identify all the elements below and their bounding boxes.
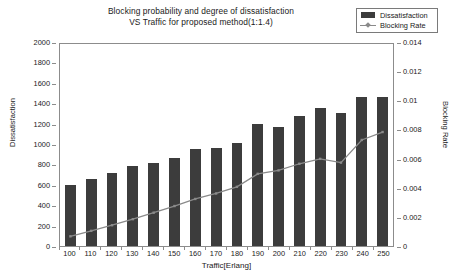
y-axis-left-tickmark xyxy=(52,206,56,207)
bar xyxy=(273,127,284,246)
bar xyxy=(377,97,388,246)
y-axis-left-tickmark xyxy=(52,247,56,248)
bar-slot xyxy=(351,44,372,246)
bar-slot xyxy=(81,44,102,246)
y-axis-left-tickmark xyxy=(52,145,56,146)
y-axis-right-tick-label: 0.008 xyxy=(403,126,422,134)
legend-label-dissatisfaction: Dissatisfaction xyxy=(380,11,428,20)
chart-title-line-2: VS Traffic for proposed method(1:1.4) xyxy=(56,17,346,28)
x-axis-tick-label: 160 xyxy=(185,249,206,258)
y-axis-left-tick-label: 1200 xyxy=(34,121,50,129)
y-axis-left-tick-label: 1800 xyxy=(34,59,50,67)
x-axis-tick-label: 170 xyxy=(206,249,227,258)
y-axis-right-tick-label: 0.01 xyxy=(403,97,417,105)
chart-title-line-1: Blocking probability and degree of dissa… xyxy=(56,6,346,17)
y-axis-right-tickmark xyxy=(397,189,401,190)
y-axis-left-tick-label: 0 xyxy=(46,243,50,251)
y-axis-left-tickmark xyxy=(52,186,56,187)
bar-slot xyxy=(310,44,331,246)
legend-bar-swatch-icon xyxy=(359,10,377,20)
bar-slot xyxy=(60,44,81,246)
y-axis-left-tickmark xyxy=(52,63,56,64)
y-axis-left-tickmark xyxy=(52,43,56,44)
y-axis-right-tick-label: 0.014 xyxy=(403,39,422,47)
y-axis-right-tick-label: 0.006 xyxy=(403,156,422,164)
y-axis-right-tickmark xyxy=(397,72,401,73)
bar-slot xyxy=(122,44,143,246)
bar xyxy=(107,173,118,246)
y-axis-right-ticks: 0.0140.0120.010.0080.0060.0040.0020 xyxy=(397,43,443,247)
bar xyxy=(315,108,326,246)
y-axis-left-tickmark xyxy=(52,227,56,228)
y-axis-right-tickmark xyxy=(397,130,401,131)
bar-slot xyxy=(143,44,164,246)
x-axis-tick-label: 100 xyxy=(59,249,80,258)
x-axis-tick-label: 240 xyxy=(352,249,373,258)
bar xyxy=(169,158,180,246)
x-axis-tick-label: 250 xyxy=(373,249,394,258)
y-axis-left-tick-label: 1400 xyxy=(34,100,50,108)
legend-item-dissatisfaction: Dissatisfaction xyxy=(359,10,435,20)
bar xyxy=(336,113,347,246)
x-axis-tick-label: 210 xyxy=(289,249,310,258)
y-axis-left-title: Dissatisfaction xyxy=(8,88,17,158)
x-axis-ticks: 1001101201301401501601701801902002102202… xyxy=(59,249,394,258)
bar-slot xyxy=(289,44,310,246)
y-axis-right-tickmark xyxy=(397,160,401,161)
bar-slot xyxy=(331,44,352,246)
bar-slot xyxy=(247,44,268,246)
y-axis-left-tickmark xyxy=(52,125,56,126)
bar-slot xyxy=(268,44,289,246)
bar xyxy=(211,148,222,246)
bar xyxy=(232,143,243,246)
bar xyxy=(148,163,159,246)
bar-slot xyxy=(102,44,123,246)
bar-slot xyxy=(372,44,393,246)
plot-area xyxy=(59,43,394,247)
x-axis-tick-label: 130 xyxy=(122,249,143,258)
y-axis-left-tickmark xyxy=(52,104,56,105)
x-axis-tick-label: 230 xyxy=(331,249,352,258)
y-axis-left-tick-label: 600 xyxy=(38,182,50,190)
y-axis-right-tickmark xyxy=(397,43,401,44)
legend-label-blocking-rate: Blocking Rate xyxy=(380,21,426,30)
y-axis-right-tick-label: 0 xyxy=(403,243,407,251)
y-axis-right-title: Blocking Rate xyxy=(441,90,450,160)
bar xyxy=(356,97,367,246)
y-axis-left-tickmark xyxy=(52,165,56,166)
bar xyxy=(294,116,305,246)
bar-series-dissatisfaction xyxy=(60,44,393,246)
y-axis-right-tickmark xyxy=(397,101,401,102)
legend-item-blocking-rate: Blocking Rate xyxy=(359,20,435,30)
x-axis-tick-label: 140 xyxy=(143,249,164,258)
x-axis-tick-label: 180 xyxy=(227,249,248,258)
bar xyxy=(65,185,76,246)
x-axis-tick-label: 150 xyxy=(164,249,185,258)
x-axis-title: Traffic[Erlang] xyxy=(59,261,394,270)
x-axis-tick-label: 220 xyxy=(310,249,331,258)
y-axis-left-tick-label: 1600 xyxy=(34,80,50,88)
bar-slot xyxy=(206,44,227,246)
y-axis-right-tick-label: 0.012 xyxy=(403,68,422,76)
bar xyxy=(127,166,138,246)
y-axis-left-tickmark xyxy=(52,84,56,85)
y-axis-right-tickmark xyxy=(397,218,401,219)
bar xyxy=(86,179,97,246)
chart-legend: Dissatisfaction Blocking Rate xyxy=(356,8,438,33)
bar xyxy=(252,124,263,246)
y-axis-left-tick-label: 400 xyxy=(38,202,50,210)
x-axis-tick-label: 110 xyxy=(80,249,101,258)
y-axis-right-tick-label: 0.002 xyxy=(403,214,422,222)
legend-line-swatch-icon xyxy=(359,20,377,30)
y-axis-right-tickmark xyxy=(397,247,401,248)
bar-slot xyxy=(185,44,206,246)
x-axis-tick-label: 120 xyxy=(101,249,122,258)
x-axis-tick-label: 200 xyxy=(268,249,289,258)
bar-slot xyxy=(164,44,185,246)
y-axis-left-tick-label: 1000 xyxy=(34,141,50,149)
chart-title: Blocking probability and degree of dissa… xyxy=(56,6,346,28)
bar xyxy=(190,149,201,246)
y-axis-left-tick-label: 200 xyxy=(38,223,50,231)
y-axis-right-tick-label: 0.004 xyxy=(403,185,422,193)
